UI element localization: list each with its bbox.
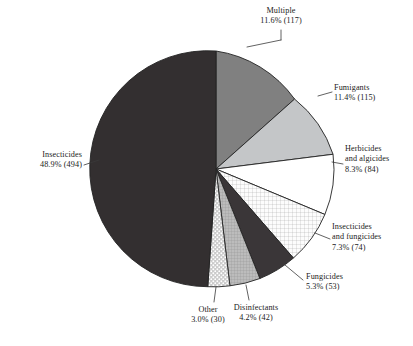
slice-label-fumigants-value: 11.4% (115) bbox=[334, 93, 413, 103]
slice-label-multiple: Multiple 11.6% (117) bbox=[236, 6, 326, 27]
slice-label-fungicides-value: 5.3% (53) bbox=[306, 282, 381, 292]
slice-label-insecticides-and-fungicides: Insecticides and fungicides 7.3% (74) bbox=[332, 222, 413, 253]
slice-label-herbicides-value: 8.3% (84) bbox=[345, 165, 413, 175]
pie-slices bbox=[90, 51, 334, 287]
slice-label-other: Other 3.0% (30) bbox=[175, 305, 241, 326]
slice-label-other-name: Other bbox=[175, 305, 241, 315]
slice-label-insecticides-and-fungicides-value: 7.3% (74) bbox=[332, 243, 413, 253]
leader-line-fungicides bbox=[285, 265, 303, 280]
leader-line-disinfectants bbox=[246, 285, 249, 300]
slice-label-herbicides-name2: and algicides bbox=[345, 154, 413, 164]
slice-label-insecticides-and-fungicides-name2: and fungicides bbox=[332, 232, 413, 242]
leader-line-fumigants bbox=[318, 92, 332, 96]
leader-line-other bbox=[214, 287, 216, 302]
slice-label-insecticides-value: 48.9% (494) bbox=[4, 160, 82, 170]
slice-label-fumigants-name: Fumigants bbox=[334, 83, 413, 93]
slice-label-multiple-name: Multiple bbox=[236, 6, 326, 16]
slice-label-herbicides: Herbicides and algicides 8.3% (84) bbox=[345, 144, 413, 175]
slice-label-multiple-value: 11.6% (117) bbox=[236, 16, 326, 26]
slice-label-insecticides: Insecticides 48.9% (494) bbox=[4, 150, 82, 171]
slice-label-insecticides-and-fungicides-name1: Insecticides bbox=[332, 222, 413, 232]
slice-label-fumigants: Fumigants 11.4% (115) bbox=[334, 83, 413, 104]
slice-label-herbicides-name1: Herbicides bbox=[345, 144, 413, 154]
pie-slice-insecticides[interactable] bbox=[90, 51, 216, 287]
leader-line-insecticides-and-fungicides bbox=[315, 233, 330, 239]
slice-label-fungicides-name: Fungicides bbox=[306, 272, 381, 282]
pie-chart: Multiple 11.6% (117) Fumigants 11.4% (11… bbox=[0, 0, 413, 346]
slice-label-fungicides: Fungicides 5.3% (53) bbox=[306, 272, 381, 293]
slice-label-insecticides-name: Insecticides bbox=[4, 150, 82, 160]
slice-label-other-value: 3.0% (30) bbox=[175, 315, 241, 325]
leader-line-multiple-elbow bbox=[247, 40, 281, 47]
